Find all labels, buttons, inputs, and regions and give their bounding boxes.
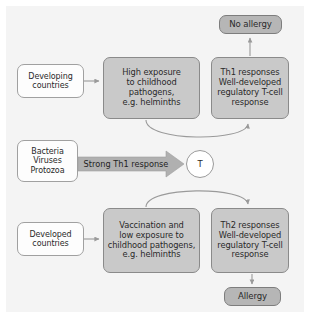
node-high-exposure: High exposureto childhoodpathogens,e.g. … (103, 57, 200, 119)
node-vaccination-label: Vaccination andlow exposure tochildhood … (104, 221, 199, 260)
node-th1-response-label: Th1 responsesWell-developedregulatory T-… (212, 68, 288, 107)
node-no-allergy: No allergy (219, 15, 282, 34)
node-vaccination: Vaccination andlow exposure tochildhood … (103, 208, 200, 273)
node-developing-countries: Developingcountries (17, 64, 84, 98)
node-th1-response: Th1 responsesWell-developedregulatory T-… (211, 57, 289, 119)
node-developed-countries: Developedcountries (17, 222, 84, 256)
edge-label-strong-th1-response: Strong Th1 response (82, 155, 170, 173)
node-t-cell-label: T (197, 159, 202, 169)
node-high-exposure-label: High exposureto childhoodpathogens,e.g. … (104, 68, 199, 107)
diagram-figure: Developingcountries High exposureto chil… (0, 0, 310, 318)
node-no-allergy-label: No allergy (220, 19, 281, 29)
node-allergy: Allergy (224, 287, 281, 306)
node-developed-countries-label: Developedcountries (18, 230, 83, 249)
node-pathogen-sources-label: BacteriaVirusesProtozoa (18, 147, 77, 175)
node-th2-response: Th2 responsesWell-developedregulatory T-… (211, 208, 289, 273)
node-developing-countries-label: Developingcountries (18, 72, 83, 91)
node-th2-response-label: Th2 responsesWell-developedregulatory T-… (212, 221, 288, 260)
node-t-cell: T (186, 150, 214, 178)
node-allergy-label: Allergy (225, 291, 280, 301)
node-pathogen-sources: BacteriaVirusesProtozoa (17, 140, 78, 182)
